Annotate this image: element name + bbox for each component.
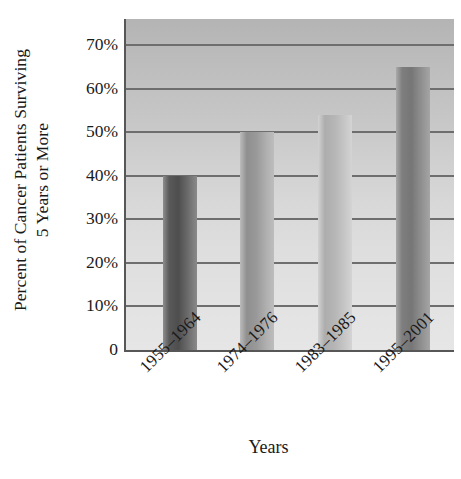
y-axis-tick-label: 50%: [56, 123, 118, 141]
x-axis-title-text: Years: [248, 437, 288, 457]
y-axis-tick-label: 10%: [56, 298, 118, 316]
x-axis-title: Years: [0, 437, 461, 458]
plot-area: [124, 19, 454, 352]
gridline: [126, 44, 454, 46]
bar-chart-figure: Percent of Cancer Patients Surviving 5 Y…: [0, 0, 461, 479]
y-axis-title-line-2: 5 Years or More: [31, 49, 53, 311]
y-axis-tick-label: 60%: [56, 80, 118, 98]
y-axis-tick-labels: 70%60%50%40%30%20%10%0: [56, 0, 118, 479]
y-axis-tick-label: 70%: [56, 36, 118, 54]
y-axis-tick-label: 20%: [56, 254, 118, 272]
y-axis-tick-label: 0: [56, 341, 118, 359]
y-axis-tick-label: 30%: [56, 211, 118, 229]
y-axis-title: Percent of Cancer Patients Surviving 5 Y…: [0, 0, 62, 360]
y-axis-title-line-1: Percent of Cancer Patients Surviving: [9, 49, 31, 311]
y-axis-tick-label: 40%: [56, 167, 118, 185]
